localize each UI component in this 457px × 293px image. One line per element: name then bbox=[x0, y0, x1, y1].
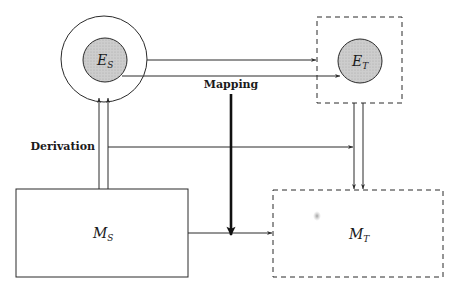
mt-label: MT bbox=[348, 226, 370, 244]
derivation-label: Derivation bbox=[30, 140, 95, 153]
node-mt: MT bbox=[273, 190, 443, 277]
node-et: ET bbox=[317, 17, 402, 103]
smudge-mark bbox=[313, 211, 321, 221]
node-es: ES bbox=[61, 16, 147, 102]
node-ms: MS bbox=[16, 189, 188, 277]
mapping-label: Mapping bbox=[204, 78, 259, 91]
diagram-canvas: ES ET MS MT Mapping Derivation bbox=[0, 0, 457, 293]
